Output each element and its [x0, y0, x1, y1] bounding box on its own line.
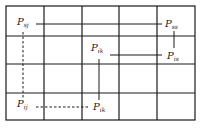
node-label-ss: Pss	[164, 18, 178, 30]
node-label-ik-bottom: Pik	[92, 101, 106, 113]
node-label-is: Pis	[166, 50, 179, 62]
node-label-ik-top: Pik	[90, 42, 104, 54]
grid-diagram: Psj Pss Pik Pis Pij Pik	[0, 0, 201, 129]
node-label-ij: Pij	[16, 98, 28, 111]
node-label-sj: Psj	[16, 16, 29, 29]
